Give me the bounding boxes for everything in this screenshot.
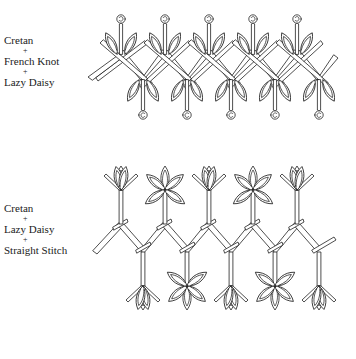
bottom-motifs [124, 78, 338, 119]
pattern-1-diagram [88, 15, 338, 119]
pattern-2-diagram [93, 166, 336, 311]
cretan-stitch-lines [93, 219, 336, 254]
stitch-diagrams [0, 0, 356, 359]
